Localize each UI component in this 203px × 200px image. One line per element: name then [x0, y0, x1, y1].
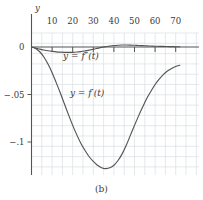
- curve-label-f-double-prime: y = f″(t): [62, 51, 99, 61]
- y-tick-label: 0: [19, 42, 24, 52]
- plot-text: 102030405060700−.05−.1yy = f″(t)y = f′(t…: [4, 3, 181, 194]
- curve-label-f-prime: y = f′(t): [69, 88, 105, 98]
- x-tick-label: 50: [129, 16, 140, 26]
- derivative-plot: 102030405060700−.05−.1yy = f″(t)y = f′(t…: [0, 0, 203, 200]
- y-axis-title: y: [34, 3, 40, 13]
- y-tick-label: −.1: [9, 137, 24, 147]
- x-tick-label: 70: [170, 16, 181, 26]
- figure-caption: (b): [95, 184, 108, 194]
- x-tick-label: 60: [150, 16, 161, 26]
- x-tick-label: 30: [88, 16, 99, 26]
- grid-lines: [32, 33, 200, 175]
- x-tick-label: 40: [108, 16, 119, 26]
- curves: [32, 45, 180, 169]
- y-tick-label: −.05: [4, 90, 25, 100]
- x-tick-label: 10: [47, 16, 58, 26]
- curve-f-prime: [32, 47, 180, 169]
- curve-f-double-prime: [32, 45, 180, 52]
- figure-container: 102030405060700−.05−.1yy = f″(t)y = f′(t…: [0, 0, 203, 200]
- x-tick-label: 20: [67, 16, 78, 26]
